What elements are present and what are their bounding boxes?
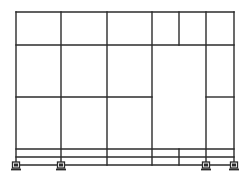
frame-members [16,12,234,165]
frame-diagram-canvas [0,0,250,185]
fixed-support-icon [56,162,66,170]
frame-supports [11,162,239,170]
fixed-support-icon [229,162,239,170]
fixed-support-icon [201,162,211,170]
structural-frame-diagram [0,0,250,185]
fixed-support-icon [11,162,21,170]
